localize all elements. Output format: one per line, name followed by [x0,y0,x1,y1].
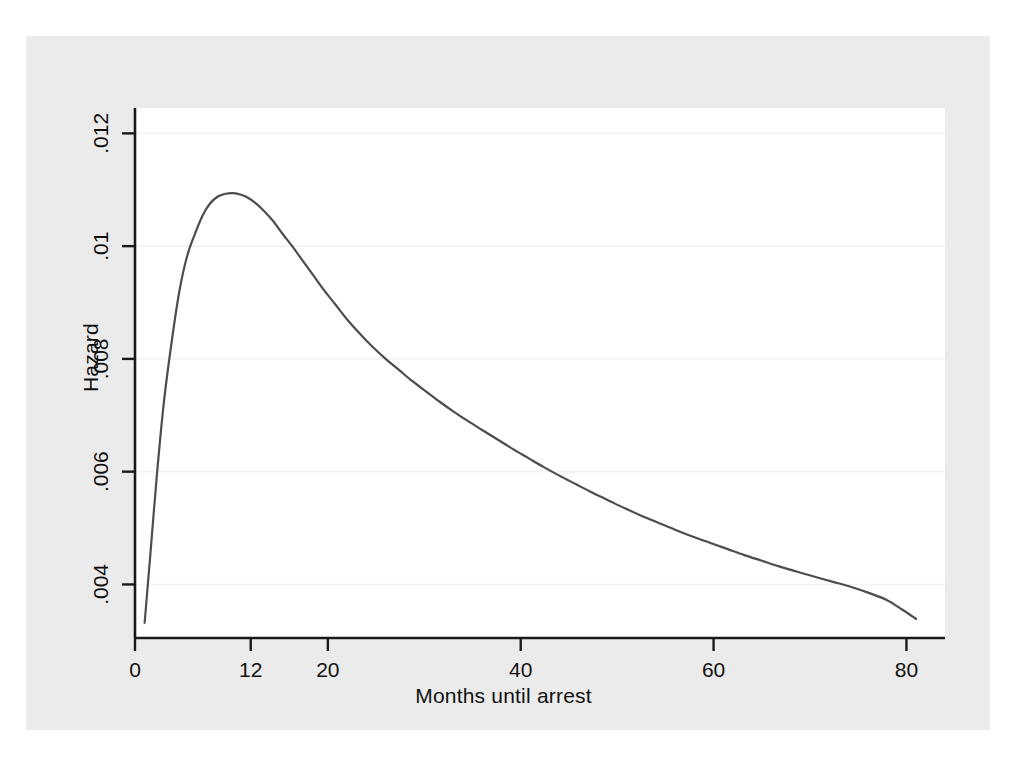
x-tick-label: 80 [895,658,918,682]
x-tick-label: 0 [129,658,141,682]
y-tick-label: .01 [89,232,113,261]
hazard-line-chart [0,0,1017,764]
y-tick-label: .012 [89,113,113,154]
x-tick-label: 60 [702,658,725,682]
x-axis-tick-marks [135,638,906,651]
x-axis-title: Months until arrest [0,684,1017,708]
y-axis-tick-marks [122,133,135,584]
x-tick-label: 20 [316,658,339,682]
y-tick-label: .006 [89,451,113,492]
x-tick-label: 40 [509,658,532,682]
x-axis-title-text: Months until arrest [415,684,592,708]
x-tick-label: 12 [239,658,262,682]
figure-canvas: .004.006.008.01.012 01220406080 Hazard M… [0,0,1017,764]
y-tick-label: .004 [89,564,113,605]
y-axis-title-text: Hazard [79,323,103,392]
plot-area [135,108,945,638]
